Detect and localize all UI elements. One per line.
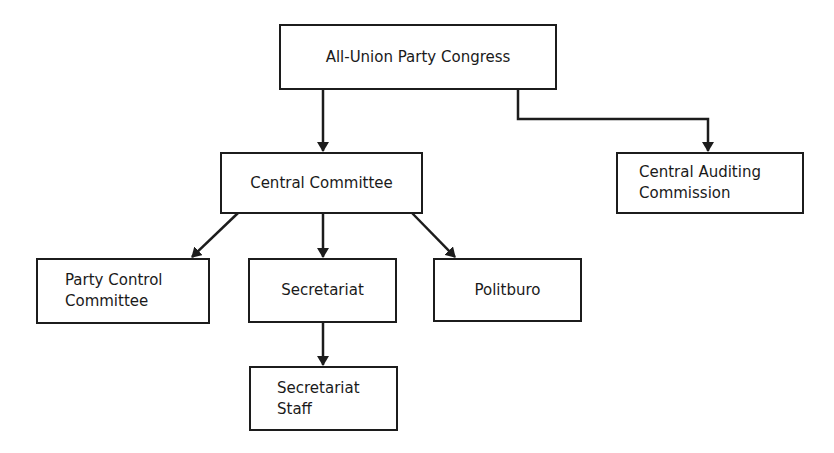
- node-label: Secretariat: [281, 280, 364, 301]
- node-label: Central Committee: [250, 173, 393, 194]
- edge-cc-to-politburo: [412, 213, 455, 257]
- node-secretariat: Secretariat: [248, 258, 397, 323]
- node-central-committee: Central Committee: [220, 152, 423, 214]
- node-party-control-committee: Party Control Committee: [36, 258, 210, 324]
- node-label-line2: Commission: [639, 183, 731, 204]
- node-politburo: Politburo: [433, 258, 582, 322]
- node-label: All-Union Party Congress: [326, 47, 511, 68]
- edge-congress-to-auditing: [518, 89, 708, 151]
- edge-cc-to-party-control: [192, 213, 238, 257]
- node-all-union-party-congress: All-Union Party Congress: [279, 24, 557, 90]
- node-label-line1: Party Control: [65, 270, 162, 291]
- node-label: Politburo: [475, 280, 541, 301]
- node-label-line1: Central Auditing: [639, 162, 761, 183]
- node-secretariat-staff: Secretariat Staff: [249, 366, 398, 431]
- node-label-line2: Committee: [65, 291, 148, 312]
- node-label-line2: Staff: [277, 399, 312, 420]
- node-central-auditing-commission: Central Auditing Commission: [616, 152, 804, 214]
- node-label-line1: Secretariat: [277, 378, 360, 399]
